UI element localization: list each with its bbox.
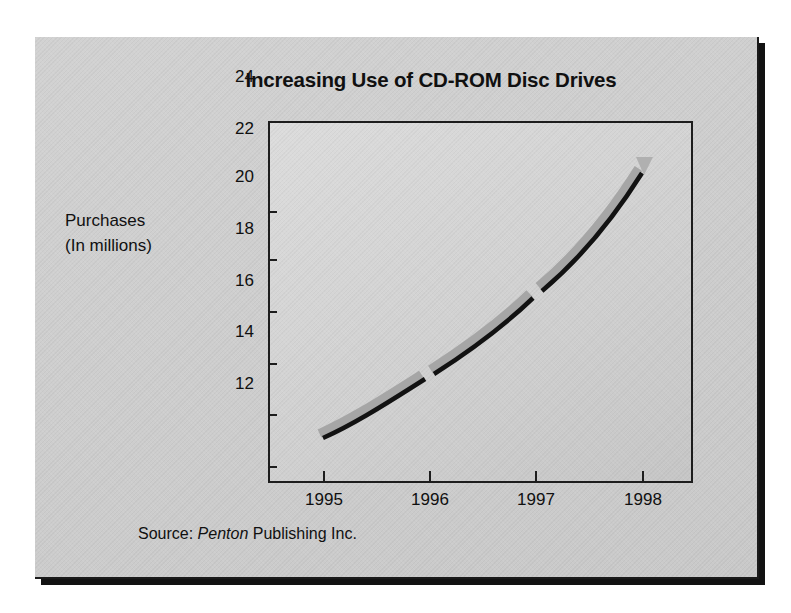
figure-card: Increasing Use of CD-ROM Disc Drives Pur… [35,37,759,579]
x-tick-label-1997: 1997 [501,490,571,510]
series-purchases [320,157,654,438]
source-suffix: Publishing Inc. [253,525,357,542]
y-tick-label-18: 18 [210,219,254,239]
x-tick-label-1995: 1995 [289,490,359,510]
series-segment-1995-1996 [323,379,425,438]
y-axis-ticks [268,212,277,467]
y-tick-label-24: 24 [210,67,254,87]
chart-title: Increasing Use of CD-ROM Disc Drives [35,68,757,92]
x-tick-label-1996: 1996 [395,490,465,510]
y-tick-label-14: 14 [210,322,254,342]
series-highlight-1997-1998 [539,169,639,287]
series-highlight-1995-1996 [320,375,422,434]
source-publisher: Penton [198,525,249,542]
y-tick-label-12: 12 [210,374,254,394]
source-note: Source: Penton Publishing Inc. [138,525,357,543]
source-prefix: Source: [138,525,193,542]
chart-canvas [268,121,693,483]
y-axis-caption-line1: Purchases [65,209,152,234]
y-axis-caption-line2: (In millions) [65,234,152,259]
x-axis-ticks [324,471,643,483]
y-axis-caption: Purchases (In millions) [65,209,152,258]
y-tick-label-20: 20 [210,167,254,187]
y-tick-label-16: 16 [210,271,254,291]
y-tick-label-22: 22 [210,119,254,139]
series-highlight-1996-1997 [431,294,530,370]
x-tick-label-1998: 1998 [608,490,678,510]
